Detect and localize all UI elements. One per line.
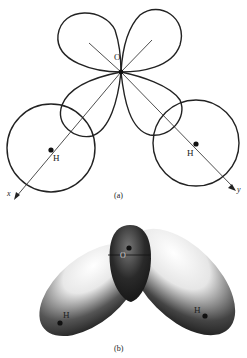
oxygen-label-a: O	[114, 52, 121, 62]
oxygen-label-b: O	[120, 251, 126, 260]
panel-b	[23, 210, 247, 354]
oxygen-nucleus-b	[126, 245, 131, 250]
axis-y-arrow-icon	[228, 184, 236, 191]
hydrogen-right-label-a: H	[187, 148, 194, 158]
axis-y-line	[121, 72, 233, 187]
axis-x-extension	[121, 40, 152, 72]
panel-b-caption: (b)	[114, 344, 124, 353]
panel-a	[7, 10, 239, 200]
axis-y-label: y	[236, 185, 241, 194]
oxygen-nucleus	[119, 70, 124, 75]
axis-x-line	[16, 72, 121, 197]
lobe-lower-left	[61, 72, 121, 137]
hydrogen-left-nucleus-b	[57, 320, 62, 325]
panel-a-caption: (a)	[114, 191, 123, 200]
hydrogen-left-nucleus	[48, 147, 53, 152]
hydrogen-left-label-b: H	[63, 310, 70, 320]
water-molecule-orbital-diagram: O H H x y (a) O H H (b)	[0, 0, 247, 358]
hydrogen-right-label-b: H	[194, 305, 201, 315]
hydrogen-left-label-a: H	[53, 153, 60, 163]
hydrogen-right-nucleus	[193, 141, 198, 146]
hydrogen-right-nucleus-b	[202, 313, 207, 318]
axis-x-label: x	[6, 189, 11, 198]
